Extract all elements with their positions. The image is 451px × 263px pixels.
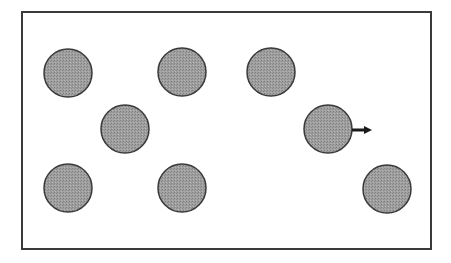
container-box [22,12,431,249]
moving-particle [304,105,352,153]
particle [363,165,411,213]
particle-diagram [0,0,451,263]
particle [158,164,206,212]
particle [158,48,206,96]
particle [101,105,149,153]
particle [44,164,92,212]
particle [44,49,92,97]
particle [247,48,295,96]
